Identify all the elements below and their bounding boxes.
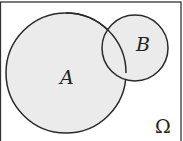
set-a-label: A xyxy=(58,66,74,88)
venn-diagram: A B Ω xyxy=(0,0,183,141)
set-b-label: B xyxy=(135,33,150,55)
set-b-circle xyxy=(102,15,168,81)
universe-label: Ω xyxy=(155,115,171,137)
